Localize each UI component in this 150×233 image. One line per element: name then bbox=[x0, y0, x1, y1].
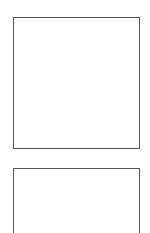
empty-panel-bottom bbox=[13, 168, 140, 233]
empty-panel-top bbox=[13, 17, 140, 149]
